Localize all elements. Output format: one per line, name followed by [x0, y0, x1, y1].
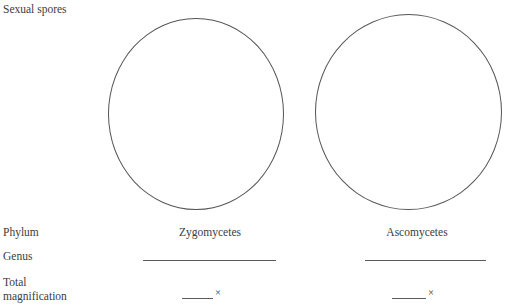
- row-label-genus: Genus: [3, 249, 32, 263]
- sexual-spores-label: Sexual spores: [3, 2, 67, 16]
- total-magnification-field-zygomycetes[interactable]: ×: [182, 288, 221, 301]
- row-label-phylum: Phylum: [3, 225, 39, 239]
- multiplication-sign-icon-ascomycetes: ×: [428, 288, 434, 298]
- phylum-name-ascomycetes: Ascomycetes: [343, 225, 491, 239]
- row-label-total-magnification: Total magnification: [3, 275, 67, 303]
- total-magnification-field-ascomycetes[interactable]: ×: [392, 288, 434, 301]
- total-magnification-blank-ascomycetes[interactable]: [392, 298, 426, 299]
- genus-blank-ascomycetes[interactable]: [365, 260, 486, 261]
- observation-circle-ascomycetes: [315, 14, 502, 210]
- row-label-total-line2: magnification: [3, 289, 67, 303]
- observation-circle-zygomycetes: [108, 18, 284, 210]
- genus-blank-zygomycetes[interactable]: [143, 260, 276, 261]
- total-magnification-blank-zygomycetes[interactable]: [182, 298, 213, 299]
- phylum-name-zygomycetes: Zygomycetes: [136, 225, 284, 239]
- multiplication-sign-icon-zygomycetes: ×: [215, 288, 221, 298]
- fungi-observation-worksheet: Sexual spores Phylum Genus Total magnifi…: [0, 0, 515, 306]
- row-label-total-line1: Total: [3, 276, 26, 288]
